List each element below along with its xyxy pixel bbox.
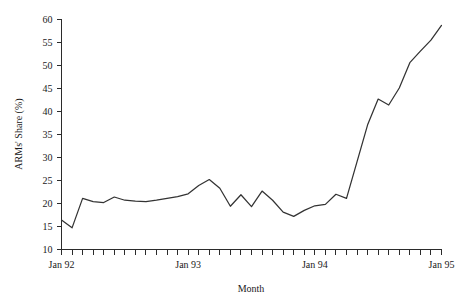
y-axis-tick-label: 35 (43, 129, 53, 140)
chart-canvas: 1015202530354045505560 Jan 92Jan 93Jan 9… (0, 0, 472, 301)
x-axis-tick-label: Jan 95 (429, 259, 455, 270)
x-axis-tick-label: Jan 94 (302, 259, 328, 270)
x-axis-tick-label: Jan 92 (49, 259, 75, 270)
x-axis-title: Month (238, 283, 265, 294)
y-axis-tick-label: 50 (43, 60, 53, 71)
y-axis-tick-label: 10 (43, 244, 53, 255)
y-axis-ticks (57, 19, 62, 249)
y-axis-tick-label: 60 (43, 14, 53, 25)
y-axis-title: ARMs' Share (%) (13, 98, 25, 169)
y-axis-tick-label: 15 (43, 221, 53, 232)
y-axis-tick-label: 25 (43, 175, 53, 186)
x-axis-tick-label: Jan 93 (175, 259, 201, 270)
data-series-line (62, 25, 442, 227)
y-axis-tick-label: 30 (43, 152, 53, 163)
y-axis-tick-label: 55 (43, 37, 53, 48)
y-axis-tick-label: 20 (43, 198, 53, 209)
x-axis-tick-labels: Jan 92Jan 93Jan 94Jan 95 (49, 259, 455, 270)
arms-share-line-chart: 1015202530354045505560 Jan 92Jan 93Jan 9… (0, 0, 472, 301)
y-axis-tick-labels: 1015202530354045505560 (43, 14, 53, 255)
y-axis-tick-label: 40 (43, 106, 53, 117)
y-axis-tick-label: 45 (43, 83, 53, 94)
